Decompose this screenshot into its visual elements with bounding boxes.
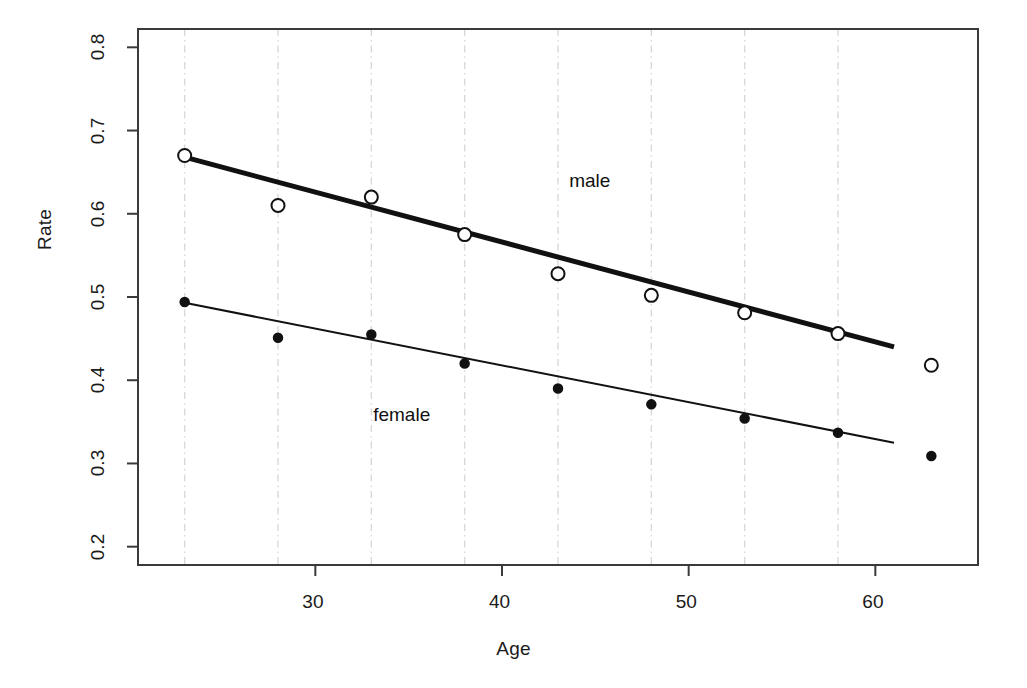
y-axis-ticks <box>127 47 138 546</box>
annotation-female: female <box>373 404 430 426</box>
y-tick-label: 0.6 <box>87 192 109 236</box>
y-tick-label: 0.5 <box>87 275 109 319</box>
y-axis-title: Rate <box>34 209 56 250</box>
x-axis-title: Age <box>0 638 1027 660</box>
y-tick-label: 0.7 <box>87 109 109 153</box>
x-axis-ticks <box>315 565 875 576</box>
annotation-male: male <box>569 170 610 192</box>
x-tick-label: 60 <box>862 591 883 613</box>
fitted-lines <box>185 157 894 442</box>
x-tick-label: 30 <box>302 591 323 613</box>
y-tick-label: 0.3 <box>87 441 109 485</box>
chart-canvas: Rate Age 30405060 0.20.30.40.50.60.70.8 … <box>0 0 1027 688</box>
y-tick-label: 0.4 <box>87 358 109 402</box>
y-tick-label: 0.2 <box>87 525 109 569</box>
x-tick-label: 40 <box>489 591 510 613</box>
scatter-plot-svg <box>0 0 1027 688</box>
x-tick-label: 50 <box>676 591 697 613</box>
y-tick-label: 0.8 <box>87 25 109 69</box>
grid-lines <box>185 29 838 565</box>
